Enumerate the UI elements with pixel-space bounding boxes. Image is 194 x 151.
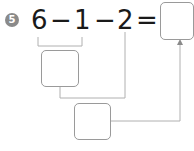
minus-sign-1: − [50, 6, 72, 34]
minus-sign-2: − [94, 6, 116, 34]
step-box-1[interactable] [41, 50, 79, 87]
problem-number-badge: 5 [5, 13, 19, 27]
operand-1: 1 [74, 6, 91, 34]
answer-box[interactable] [160, 2, 194, 40]
step-box-2[interactable] [74, 103, 111, 140]
operand-6: 6 [31, 6, 48, 34]
equals-sign: = [136, 6, 158, 34]
operand-2: 2 [117, 6, 134, 34]
